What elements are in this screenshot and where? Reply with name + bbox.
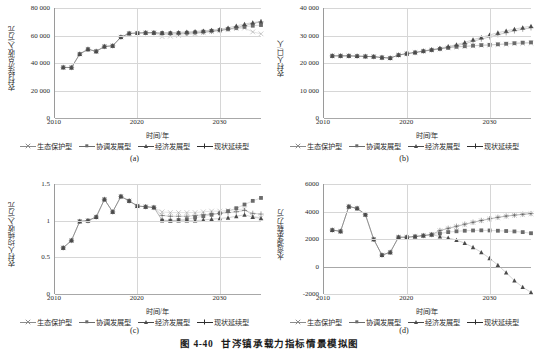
gridline-horizontal: [324, 91, 531, 92]
legend-a: 生态保护型协调发展型经济发展型现状延续型: [4, 141, 265, 151]
legend-marker-triangle-icon: [138, 319, 154, 326]
legend-marker-triangle-icon: [138, 143, 154, 150]
panel-caption-c: (c): [0, 326, 269, 335]
plot-area-d: [323, 184, 531, 294]
chart-panel-d: 水资源承载力/万 -20000200040006000 201020202030…: [269, 176, 539, 332]
legend-item-coord[interactable]: 协调发展型: [79, 141, 131, 151]
x-axis-label-a: 时间/年: [54, 130, 261, 140]
gridline-vertical: [137, 184, 138, 294]
y-tick-label: 80 000: [31, 5, 50, 12]
y-tick-label: 1: [47, 217, 51, 224]
y-tick-label: 60 000: [31, 32, 50, 39]
x-axis-label-b: 时间/年: [323, 130, 531, 140]
figure-title: 甘涔镇承载力指标情景模拟图: [221, 339, 359, 349]
legend-item-econ[interactable]: 经济发展型: [408, 141, 460, 151]
legend-item-status[interactable]: 现状延续型: [467, 141, 519, 151]
y-tick-label: 6000: [305, 181, 319, 188]
x-tick-label: 2030: [482, 119, 496, 126]
gridline-vertical: [407, 8, 408, 118]
legend-item-status[interactable]: 现状延续型: [197, 141, 249, 151]
legend-marker-cross-icon: [290, 143, 306, 150]
legend-marker-triangle-icon: [408, 143, 424, 150]
x-tick-label: 2020: [130, 295, 144, 302]
plot-wrap-c: 农村人均纯收入/万元 00.511.5 201020202030 时间/年: [0, 176, 269, 311]
y-tick-label: 30 000: [300, 32, 319, 39]
plot-area-a: [54, 8, 261, 118]
legend-label: 现状延续型: [214, 141, 249, 151]
plot-wrap-b: 农村人口/人 010 00020 00030 00040 000 2010202…: [269, 0, 539, 135]
legend-marker-cross-icon: [20, 143, 36, 150]
gridline-horizontal: [324, 239, 531, 240]
x-tick-label: 2010: [47, 119, 61, 126]
legend-item-eco[interactable]: 生态保护型: [20, 141, 72, 151]
y-tick-label: 40 000: [31, 60, 50, 67]
legend-label: 经济发展型: [425, 141, 460, 151]
legend-marker-plus-icon: [467, 319, 483, 326]
gridline-vertical: [220, 8, 221, 118]
gridline-horizontal: [55, 91, 261, 92]
x-tick-label: 2020: [130, 119, 144, 126]
gridline-vertical: [407, 184, 408, 294]
gridline-vertical: [490, 184, 491, 294]
figure-page: 农村经济总收入/万元 020 00040 00060 00080 000 201…: [0, 0, 539, 356]
legend-b: 生态保护型协调发展型经济发展型现状延续型: [273, 141, 535, 151]
y-tick-label: 0.5: [41, 254, 50, 261]
gridline-horizontal: [324, 212, 531, 213]
x-tick-label: 2020: [399, 295, 413, 302]
y-tick-labels-d: -20000200040006000: [287, 184, 321, 294]
x-tick-label: 2030: [482, 295, 496, 302]
y-tick-labels-a: 020 00040 00060 00080 000: [18, 8, 52, 118]
legend-marker-triangle-icon: [408, 319, 424, 326]
legend-label: 协调发展型: [96, 141, 131, 151]
plot-area-c: [54, 184, 261, 294]
legend-marker-square-icon: [79, 143, 95, 150]
panel-caption-b: (b): [269, 154, 539, 163]
legend-marker-plus-icon: [197, 143, 213, 150]
legend-item-econ[interactable]: 经济发展型: [138, 141, 190, 151]
y-tick-label: 20 000: [300, 60, 319, 67]
series-layer-c: [55, 184, 261, 294]
legend-label: 协调发展型: [366, 141, 401, 151]
gridline-horizontal: [324, 267, 531, 268]
gridline-horizontal: [55, 257, 261, 258]
gridline-horizontal: [324, 184, 531, 185]
gridline-horizontal: [55, 63, 261, 64]
legend-label: 现状延续型: [484, 141, 519, 151]
legend-marker-plus-icon: [197, 319, 213, 326]
gridline-horizontal: [55, 36, 261, 37]
legend-marker-square-icon: [349, 319, 365, 326]
y-tick-label: 0: [316, 263, 320, 270]
x-tick-label: 2010: [316, 119, 330, 126]
y-tick-label: 2000: [305, 236, 319, 243]
figure-number: 图 4-40: [180, 339, 213, 349]
y-tick-labels-b: 010 00020 00030 00040 000: [287, 8, 321, 118]
x-tick-label: 2010: [47, 295, 61, 302]
legend-item-coord[interactable]: 协调发展型: [349, 141, 401, 151]
gridline-horizontal: [324, 63, 531, 64]
legend-marker-cross-icon: [20, 319, 36, 326]
gridline-horizontal: [55, 221, 261, 222]
y-tick-labels-c: 00.511.5: [18, 184, 52, 294]
y-tick-label: 1.5: [41, 181, 50, 188]
chart-panel-c: 农村人均纯收入/万元 00.511.5 201020202030 时间/年 生态…: [0, 176, 269, 332]
gridline-horizontal: [55, 184, 261, 185]
y-tick-label: 4000: [305, 208, 319, 215]
plot-wrap-d: 水资源承载力/万 -20000200040006000 201020202030…: [269, 176, 539, 311]
legend-marker-square-icon: [79, 319, 95, 326]
legend-label: 经济发展型: [155, 141, 190, 151]
gridline-horizontal: [324, 36, 531, 37]
chart-panel-b: 农村人口/人 010 00020 00030 00040 000 2010202…: [269, 0, 539, 176]
gridline-vertical: [490, 8, 491, 118]
legend-label: 生态保护型: [37, 141, 72, 151]
panel-caption-a: (a): [0, 154, 269, 163]
legend-item-eco[interactable]: 生态保护型: [290, 141, 342, 151]
gridline-vertical: [137, 8, 138, 118]
legend-marker-square-icon: [349, 143, 365, 150]
y-tick-label: 40 000: [300, 5, 319, 12]
x-tick-label: 2030: [213, 295, 227, 302]
panel-caption-d: (d): [269, 326, 539, 335]
gridline-horizontal: [55, 8, 261, 9]
figure-caption: 图 4-40甘涔镇承载力指标情景模拟图: [0, 336, 539, 350]
chart-grid: 农村经济总收入/万元 020 00040 00060 00080 000 201…: [0, 0, 539, 332]
x-tick-label: 2030: [213, 119, 227, 126]
